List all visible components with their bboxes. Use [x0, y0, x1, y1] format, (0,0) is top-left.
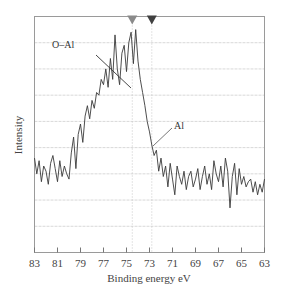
annotation-o-al: O–Al: [52, 39, 74, 50]
x-tick-label: 83: [29, 257, 41, 269]
x-tick-label: 65: [236, 257, 248, 269]
x-axis-tick-labels: 8381797775737169676563: [29, 257, 271, 269]
spectrum-line: [35, 30, 265, 208]
marker-dotted-lines: [132, 17, 152, 253]
x-tick-label: 71: [167, 257, 178, 269]
x-axis-ticks: [35, 248, 265, 253]
x-tick-label: 75: [121, 257, 133, 269]
x-tick-label: 77: [98, 257, 110, 269]
x-tick-label: 69: [190, 257, 202, 269]
x-tick-label: 67: [213, 257, 225, 269]
x-tick-label: 79: [75, 257, 87, 269]
y-axis-title: Intensity: [12, 115, 24, 154]
xps-spectrum-chart: 8381797775737169676563 O–AlAl Binding en…: [0, 0, 281, 296]
annotations: O–AlAl: [52, 39, 184, 146]
annotation-al: Al: [174, 120, 184, 131]
triangle-down-icon: [147, 16, 157, 25]
annotation-al-line: [153, 128, 172, 146]
x-axis-title: Binding energy eV: [107, 272, 191, 284]
x-tick-label: 63: [259, 257, 271, 269]
x-tick-label: 73: [144, 257, 156, 269]
triangle-down-icon: [127, 16, 137, 25]
x-tick-label: 81: [52, 257, 63, 269]
